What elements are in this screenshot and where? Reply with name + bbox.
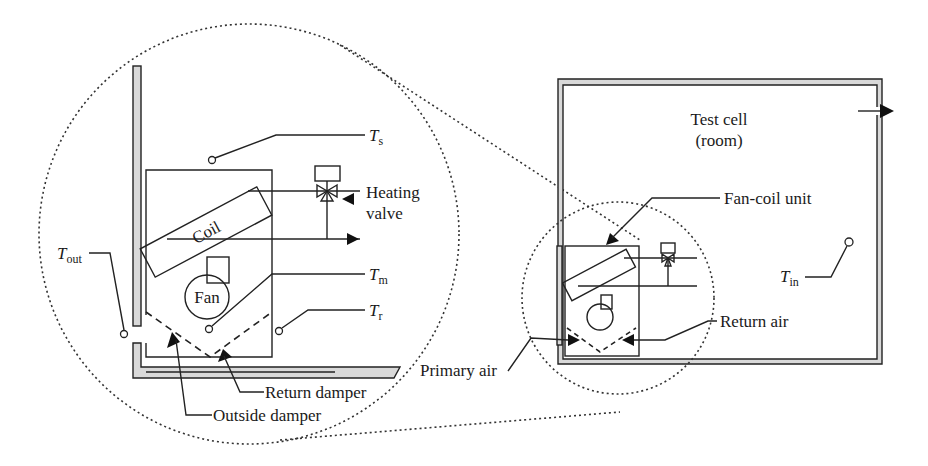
pipe-outflow-arrow-icon xyxy=(347,233,359,245)
svg-text:Ts: Ts xyxy=(369,126,383,148)
fan-coil-unit-label: Fan-coil unit xyxy=(724,189,812,208)
primary-air-label: Primary air xyxy=(420,361,497,380)
zoom-circle xyxy=(39,24,459,444)
sensor-return: Tr xyxy=(276,301,383,335)
svg-text:Tm: Tm xyxy=(369,265,388,287)
return-air-arrow-icon xyxy=(622,334,634,346)
detail-circle xyxy=(522,202,714,394)
sensor-outside: Tout xyxy=(57,244,128,338)
magnifier-connector-lines xyxy=(280,45,640,440)
fcu-leader xyxy=(612,198,720,238)
outer-wall-upper xyxy=(133,66,141,326)
fan-coil-diagram: Coil Heating valve Fan xyxy=(0,0,928,466)
sensor-indoor: Tin xyxy=(780,238,853,289)
zoom-detail: Coil Heating valve Fan xyxy=(57,66,420,425)
coil: Coil xyxy=(140,187,272,277)
room-label-1: Test cell xyxy=(691,110,748,129)
outside-damper-label: Outside damper xyxy=(213,406,321,425)
room-label-2: (room) xyxy=(695,131,742,150)
valve-actuator xyxy=(315,166,340,181)
return-damper-arrow-icon xyxy=(218,349,232,362)
sensor-supply: Ts xyxy=(209,126,384,164)
fcu-pointer-arrow-icon xyxy=(606,233,619,245)
room-view: Test cell (room) Primary air Return air … xyxy=(420,79,894,394)
return-air-label: Return air xyxy=(720,312,789,331)
return-damper-label: Return damper xyxy=(265,383,367,402)
fan: Fan xyxy=(185,257,229,319)
sensor-mixed: Tm xyxy=(206,265,389,333)
fan-label: Fan xyxy=(194,288,220,307)
valve-inflow-arrow-icon xyxy=(342,193,354,205)
heating-valve-label-1: Heating xyxy=(366,183,420,202)
svg-text:Tr: Tr xyxy=(369,301,382,323)
outer-wall-floor xyxy=(133,343,400,378)
return-air-leader xyxy=(634,321,717,340)
svg-text:Tout: Tout xyxy=(57,244,82,266)
svg-text:Tin: Tin xyxy=(780,267,799,289)
heating-valve-label-2: valve xyxy=(366,204,403,223)
exhaust-arrow-icon xyxy=(880,104,894,118)
